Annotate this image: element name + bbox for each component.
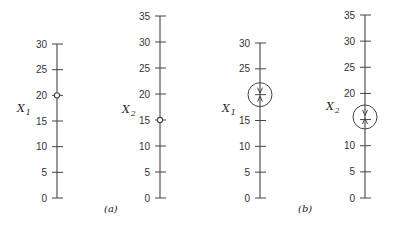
- tick-label: 15: [239, 115, 251, 126]
- tick-label: 10: [36, 141, 48, 152]
- tick-label: 20: [139, 89, 151, 100]
- axis-label: X2: [325, 100, 340, 115]
- tick-label: 25: [139, 63, 151, 74]
- tick-label: 25: [344, 62, 356, 73]
- tick-label: 0: [244, 193, 250, 204]
- axis-b-x1: 0510152530X1: [221, 38, 272, 204]
- tick-label: 35: [139, 11, 151, 22]
- tick-label: 20: [36, 90, 48, 101]
- tick-label: 15: [139, 115, 151, 126]
- tick-label: 15: [36, 116, 48, 127]
- tick-label: 5: [41, 167, 47, 178]
- tick-label: 10: [239, 141, 251, 152]
- tick-label: 25: [239, 63, 251, 74]
- tick-label: 35: [344, 10, 356, 21]
- tick-label: 30: [239, 38, 251, 49]
- figure: 051015202530X105101520253035X2(a)0510152…: [0, 0, 394, 232]
- tick-label: 25: [36, 64, 48, 75]
- equilibrium-point: [54, 93, 59, 98]
- panel-b: 0510152530X1051020253035X2(b): [221, 10, 377, 215]
- tick-label: 10: [344, 140, 356, 151]
- panel-a: 051015202530X105101520253035X2(a): [16, 11, 166, 215]
- axis-label: X2: [121, 103, 136, 118]
- equilibrium-point: [157, 117, 162, 122]
- tick-label: 5: [349, 166, 355, 177]
- tick-label: 0: [349, 193, 355, 204]
- tick-label: 5: [144, 167, 150, 178]
- tick-label: 5: [244, 167, 250, 178]
- tick-label: 20: [344, 88, 356, 99]
- panel-label: (a): [104, 203, 118, 214]
- tick-label: 0: [41, 193, 47, 204]
- axis-label: X1: [16, 102, 31, 117]
- axis-label: X1: [221, 102, 236, 117]
- panel-label: (b): [298, 203, 312, 214]
- axis-a-x1: 051015202530X1: [16, 39, 63, 204]
- tick-label: 30: [344, 36, 356, 47]
- axis-a-x2: 05101520253035X2: [121, 11, 166, 204]
- tick-label: 30: [139, 37, 151, 48]
- tick-label: 30: [36, 39, 48, 50]
- axis-b-x2: 051020253035X2: [325, 10, 377, 204]
- tick-label: 0: [144, 193, 150, 204]
- tick-label: 10: [139, 141, 151, 152]
